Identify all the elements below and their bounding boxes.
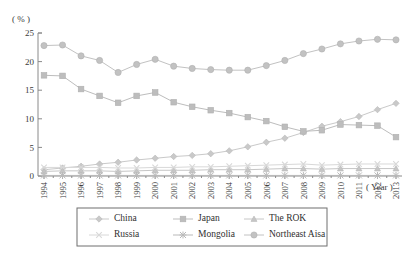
x-tick-label: 1998 bbox=[113, 182, 123, 199]
data-point-square bbox=[245, 114, 251, 120]
data-point-square bbox=[60, 73, 66, 79]
legend-label: China bbox=[114, 213, 137, 223]
series-china bbox=[41, 100, 399, 173]
chart-container: ( % )( Year )051015202519941995199619971… bbox=[0, 0, 414, 257]
data-point-circle bbox=[319, 46, 325, 52]
data-point-asterisk bbox=[207, 172, 214, 179]
x-tick-label: 2003 bbox=[206, 182, 216, 199]
y-tick-label: 0 bbox=[30, 171, 35, 181]
series-northeast-aisa bbox=[41, 36, 399, 75]
data-point-asterisk bbox=[244, 172, 251, 179]
data-point-circle bbox=[152, 56, 158, 62]
data-point-circle bbox=[263, 63, 269, 69]
data-point-asterisk bbox=[115, 172, 122, 179]
data-point-square bbox=[282, 124, 288, 130]
x-tick-label: 2000 bbox=[150, 182, 160, 199]
legend-label: Mongolia bbox=[198, 229, 236, 239]
data-point-square bbox=[226, 110, 232, 116]
data-point-diamond bbox=[115, 159, 121, 165]
x-tick-label: 2010 bbox=[336, 182, 346, 199]
data-point-asterisk bbox=[59, 172, 66, 179]
data-point-asterisk bbox=[170, 172, 177, 179]
data-point-square bbox=[319, 127, 325, 133]
data-point-diamond bbox=[133, 157, 139, 163]
data-point-circle bbox=[41, 42, 47, 48]
data-point-circle bbox=[115, 69, 121, 75]
data-point-asterisk bbox=[226, 172, 233, 179]
data-point-circle bbox=[282, 57, 288, 63]
data-point-square bbox=[134, 93, 140, 99]
data-point-asterisk bbox=[337, 172, 344, 179]
data-point-diamond bbox=[356, 113, 362, 119]
line-chart: ( % )( Year )051015202519941995199619971… bbox=[0, 0, 414, 257]
data-point-square bbox=[78, 86, 84, 92]
data-point-asterisk bbox=[41, 172, 48, 179]
data-point-square bbox=[208, 107, 214, 113]
data-point-square bbox=[301, 129, 307, 135]
y-tick-label: 10 bbox=[25, 114, 35, 124]
data-point-diamond bbox=[170, 153, 176, 159]
data-point-asterisk bbox=[281, 172, 288, 179]
data-point-square bbox=[375, 123, 381, 129]
data-point-circle bbox=[171, 63, 177, 69]
data-point-square bbox=[152, 90, 158, 96]
data-point-diamond bbox=[189, 152, 195, 158]
data-point-circle bbox=[189, 65, 195, 71]
series-line bbox=[44, 103, 396, 169]
data-point-square bbox=[171, 99, 177, 105]
legend-label: Japan bbox=[198, 213, 220, 223]
data-point-circle bbox=[393, 37, 399, 43]
data-point-asterisk bbox=[300, 172, 307, 179]
data-point-diamond bbox=[282, 135, 288, 141]
data-point-asterisk bbox=[318, 172, 325, 179]
x-tick-label: 2005 bbox=[243, 182, 253, 199]
x-tick-label: 2006 bbox=[262, 182, 272, 199]
data-point-square bbox=[115, 100, 121, 106]
data-point-asterisk bbox=[152, 172, 159, 179]
data-point-circle bbox=[374, 36, 380, 42]
x-tick-label: 2002 bbox=[187, 182, 197, 199]
x-tick-label: 2009 bbox=[317, 182, 327, 199]
data-point-circle bbox=[134, 61, 140, 67]
data-point-diamond bbox=[374, 106, 380, 112]
x-tick-label: 2012 bbox=[373, 182, 383, 199]
legend-label: Russia bbox=[114, 229, 140, 239]
data-point-diamond bbox=[226, 148, 232, 154]
data-point-square bbox=[356, 122, 362, 128]
legend: ChinaJapanThe ROKRussiaMongoliaNortheast… bbox=[77, 208, 327, 246]
data-point-asterisk bbox=[393, 172, 400, 179]
y-axis-unit-label: ( % ) bbox=[12, 14, 30, 24]
data-point-circle bbox=[337, 41, 343, 47]
data-point-square bbox=[264, 118, 270, 124]
y-tick-label: 20 bbox=[25, 57, 35, 67]
data-point-asterisk bbox=[355, 172, 362, 179]
data-point-circle bbox=[208, 67, 214, 73]
data-point-circle bbox=[356, 38, 362, 44]
y-tick-label: 5 bbox=[30, 143, 35, 153]
x-tick-label: 2008 bbox=[299, 182, 309, 199]
x-tick-label: 2011 bbox=[354, 182, 364, 199]
data-point-diamond bbox=[152, 155, 158, 161]
series-japan bbox=[41, 73, 399, 140]
data-point-square bbox=[393, 134, 399, 140]
x-tick-label: 1995 bbox=[58, 182, 68, 199]
data-point-circle bbox=[96, 57, 102, 63]
data-point-diamond bbox=[393, 100, 399, 106]
data-point-circle bbox=[59, 42, 65, 48]
x-tick-label: 1999 bbox=[132, 182, 142, 199]
data-point-asterisk bbox=[96, 172, 103, 179]
data-point-diamond bbox=[208, 150, 214, 156]
y-tick-label: 15 bbox=[25, 85, 35, 95]
data-point-diamond bbox=[96, 161, 102, 167]
data-point-asterisk bbox=[263, 172, 270, 179]
x-tick-label: 2004 bbox=[224, 181, 234, 199]
x-tick-label: 2007 bbox=[280, 182, 290, 199]
data-point-square bbox=[41, 73, 47, 79]
data-point-circle bbox=[300, 50, 306, 56]
x-tick-label: 1994 bbox=[39, 181, 49, 199]
legend-label: The ROK bbox=[269, 213, 306, 223]
data-point-asterisk bbox=[374, 172, 381, 179]
data-point-diamond bbox=[245, 144, 251, 150]
y-tick-label: 25 bbox=[25, 28, 35, 38]
data-point-square bbox=[189, 104, 195, 110]
